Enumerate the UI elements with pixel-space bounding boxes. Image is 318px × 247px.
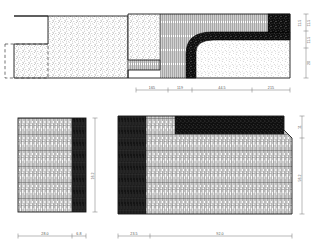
stipple-fill-top-right — [126, 12, 164, 64]
stipple-fill-lower-right — [190, 36, 294, 82]
dark-corner-block — [268, 14, 290, 32]
dim-label-11: 11 — [298, 125, 302, 129]
dim-label-16-2: 16.2 — [91, 173, 95, 180]
plan-view-top-left — [5, 10, 136, 86]
dimension-line-bottom-left-vertical — [93, 118, 98, 212]
dim-label-11-5-b: 11.5 — [298, 20, 302, 27]
technical-drawing-canvas: 165 119 44.5 215 11.5 11.5 11.5 20 16.2 … — [0, 0, 318, 247]
dark-top-band — [175, 116, 284, 134]
dim-label-119: 119 — [177, 86, 183, 90]
dim-label-23-5: 23.5 — [130, 232, 137, 236]
dim-label-56-2: 56.2 — [298, 175, 302, 182]
dark-edge-bottom-left — [72, 118, 86, 212]
dim-label-11-5-c: 11.5 — [307, 37, 311, 44]
stipple-fill-top-left — [10, 10, 136, 86]
dim-label-92-0: 92.0 — [216, 232, 223, 236]
dim-label-165: 165 — [149, 86, 155, 90]
elevation-view-bottom-right — [118, 116, 294, 214]
drawing-sheet: 165 119 44.5 215 11.5 11.5 11.5 20 16.2 … — [0, 0, 318, 247]
section-view-top-right — [126, 12, 294, 82]
dim-label-6-8: 6.8 — [76, 232, 81, 236]
dimension-line-bottom-right-horizontal — [118, 234, 292, 239]
dim-label-20: 20 — [307, 61, 311, 65]
dim-label-215: 215 — [268, 86, 274, 90]
dim-label-11-5-a: 11.5 — [307, 20, 311, 27]
dim-label-28-0: 28.0 — [41, 232, 48, 236]
elevation-view-bottom-left — [18, 118, 86, 212]
dimension-line-bottom-right-vertical — [300, 116, 305, 214]
dark-edge-bottom-right — [118, 116, 146, 214]
dim-label-44-5: 44.5 — [218, 86, 225, 90]
